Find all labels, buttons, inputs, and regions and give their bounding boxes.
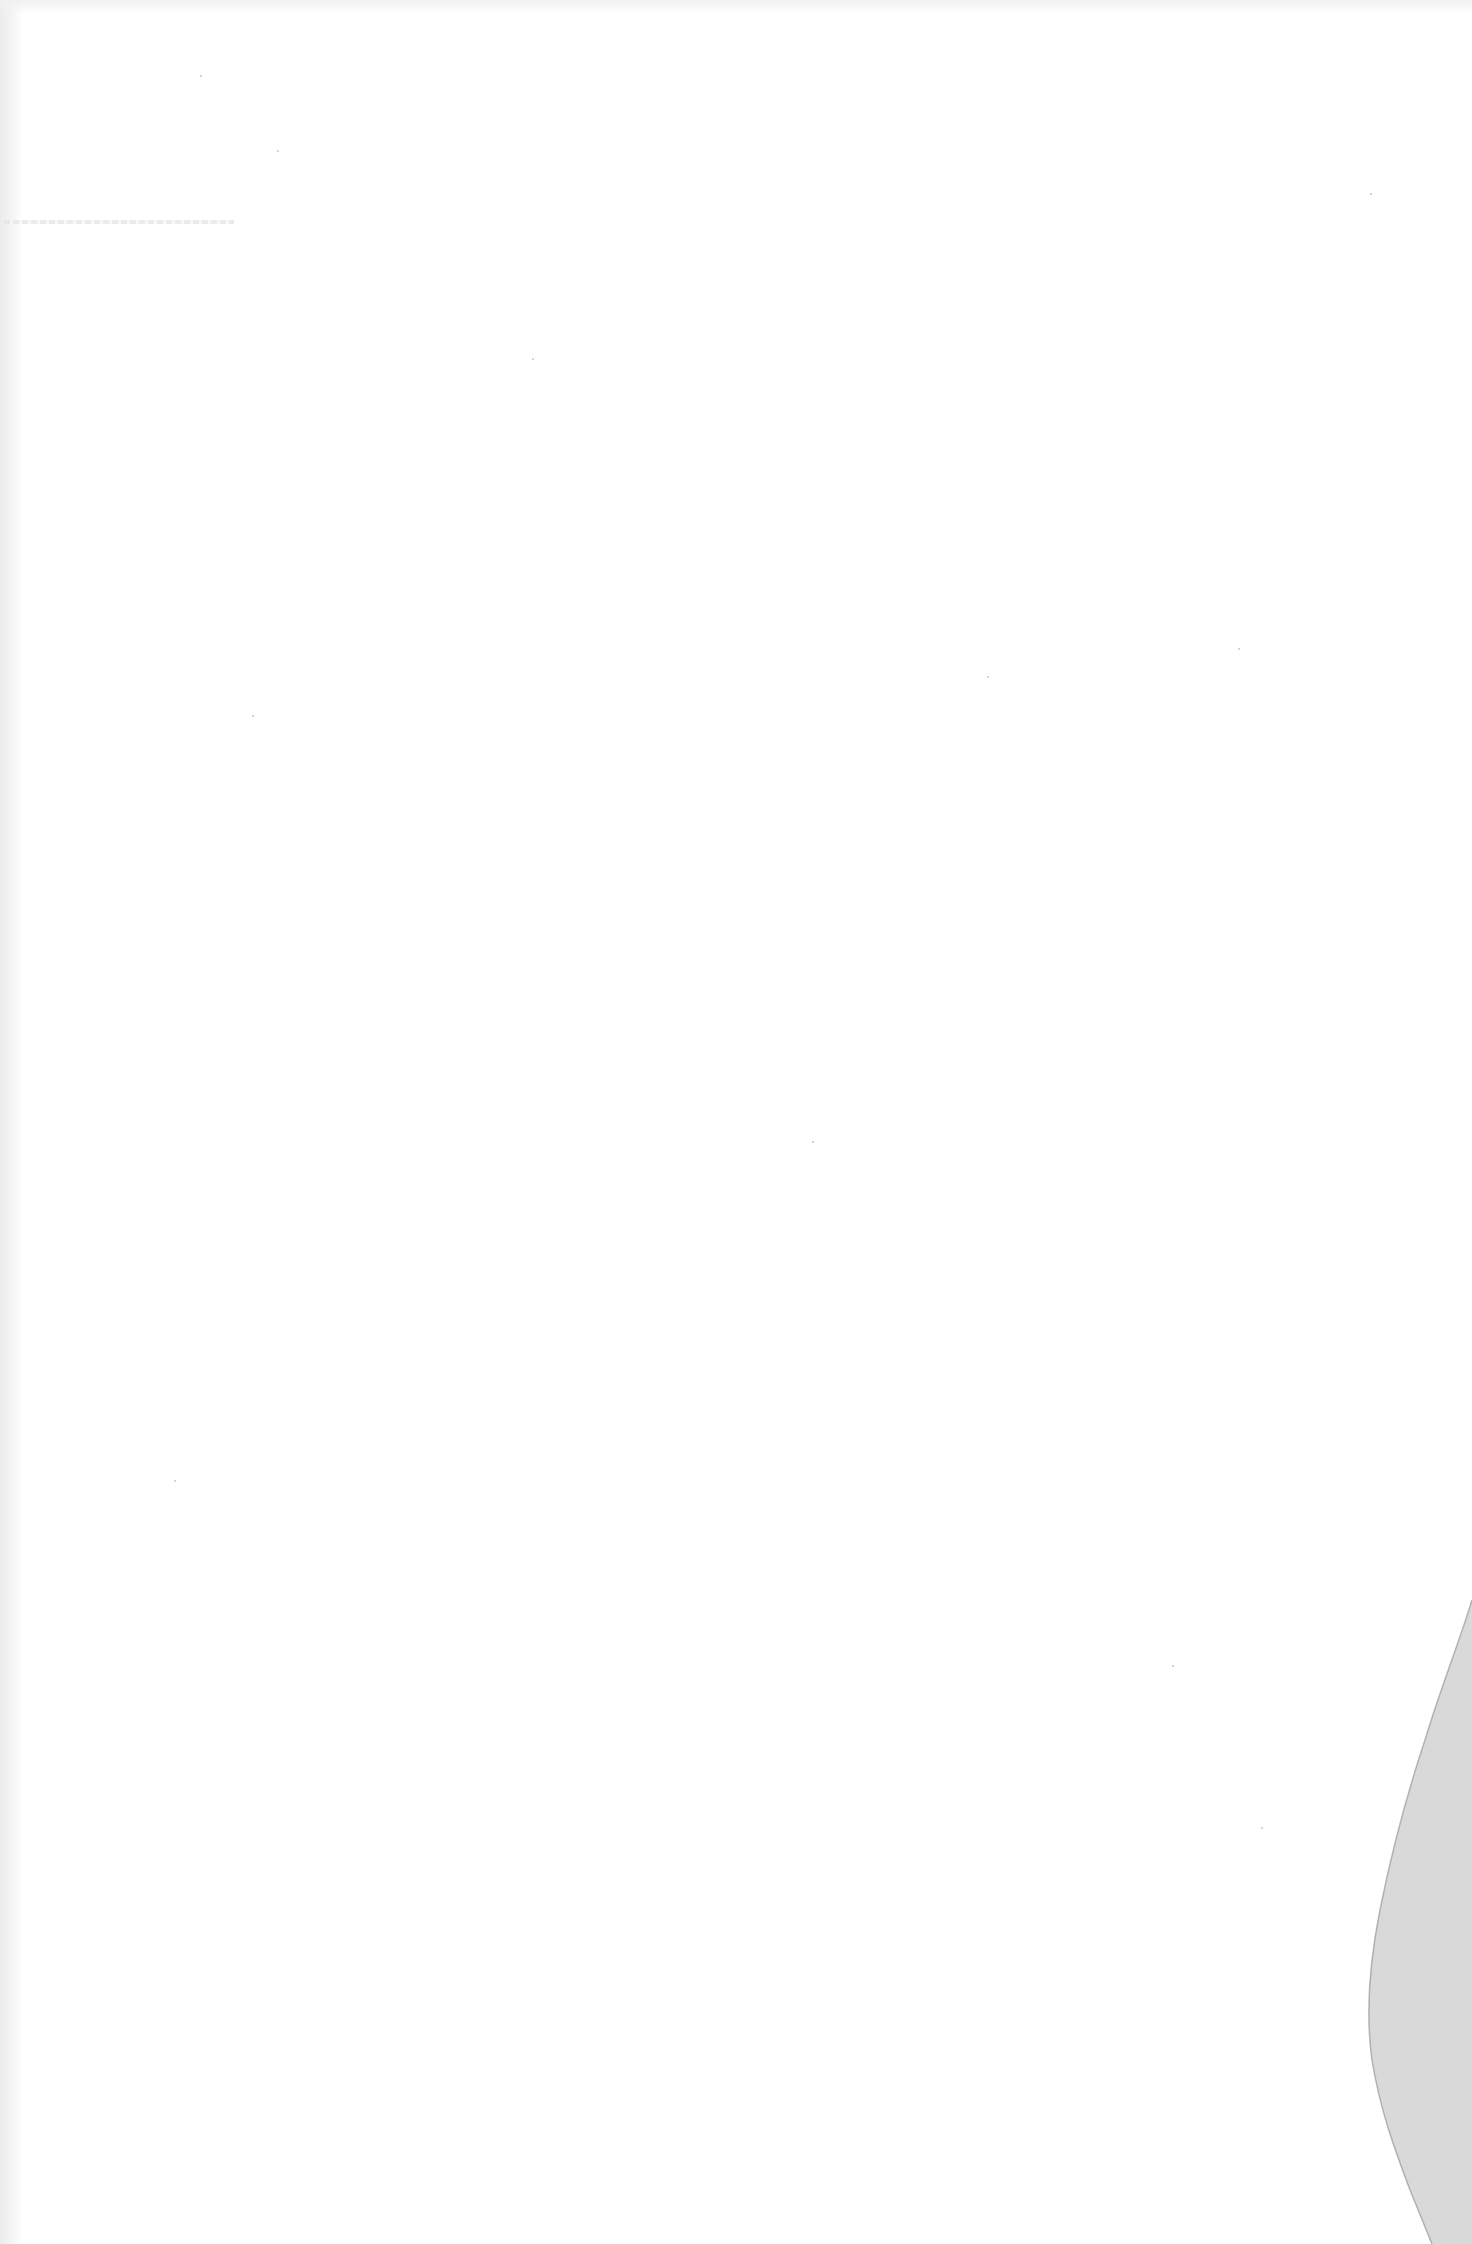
torn-corner (0, 0, 1472, 2244)
paper-speck (532, 358, 534, 360)
paper-speck (277, 150, 279, 152)
paper-speck (1172, 1665, 1174, 1667)
paper-speck (1261, 1827, 1263, 1829)
paper-speck (1370, 193, 1372, 195)
paper-speck (987, 676, 989, 678)
paper-speck (174, 1480, 176, 1482)
blank-document-page (0, 0, 1472, 2244)
paper-speck (200, 75, 202, 77)
paper-speck (252, 715, 254, 717)
bleed-through-marks (4, 220, 234, 224)
paper-speck (812, 1141, 814, 1143)
paper-speck (1238, 648, 1240, 650)
